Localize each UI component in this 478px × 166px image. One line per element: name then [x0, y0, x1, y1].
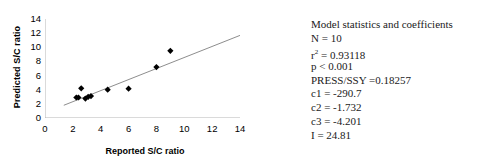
stats-heading: Model statistics and coefficients [311, 18, 476, 32]
x-tick-label: 6 [119, 124, 139, 134]
stats-line: c2 = -1.732 [311, 101, 476, 115]
x-tick-label: 10 [174, 124, 194, 134]
data-point [167, 48, 173, 54]
model-statistics-block: Model statistics and coefficients N = 10… [311, 18, 476, 46]
x-tick-label: 12 [202, 124, 222, 134]
x-tick-label: 2 [63, 124, 83, 134]
y-tick-label: 10 [19, 42, 41, 52]
stats-line-text: = 0.93118 [318, 48, 365, 60]
scatter-chart: Predicted S/C ratio 02468101214 02468101… [0, 0, 300, 166]
y-tick-label: 0 [19, 113, 41, 123]
stats-line: c1 = -290.7 [311, 87, 476, 101]
plot-area [45, 19, 240, 118]
x-tick-label: 4 [91, 124, 111, 134]
y-axis-tick-labels: 02468101214 [15, 0, 41, 166]
stats-lines: N = 10r2 = 0.93118p < 0.001PRESS/SSY =0.… [311, 32, 476, 46]
y-tick-label: 8 [19, 56, 41, 66]
y-tick-label: 4 [19, 85, 41, 95]
stats-line: c3 = -4.201 [311, 115, 476, 129]
x-tick-label: 14 [230, 124, 250, 134]
data-point [105, 87, 111, 93]
stats-line: r2 = 0.93118 [311, 46, 476, 60]
stats-line: N = 10 [311, 32, 476, 46]
data-point-markers [73, 48, 173, 102]
y-tick-label: 2 [19, 99, 41, 109]
x-axis-title: Reported S/C ratio [45, 146, 245, 156]
x-tick-label: 8 [146, 124, 166, 134]
stats-line: I = 24.81 [311, 129, 476, 143]
data-point [125, 86, 131, 92]
data-point [78, 85, 84, 91]
y-tick-label: 6 [19, 71, 41, 81]
stats-line: PRESS/SSY =0.18257 [311, 74, 476, 88]
x-axis-tick-labels: 02468101214 [0, 124, 300, 138]
stats-line: p < 0.001 [311, 60, 476, 74]
x-tick-label: 0 [35, 124, 55, 134]
y-tick-label: 12 [19, 28, 41, 38]
plot-svg [45, 19, 240, 118]
y-tick-label: 14 [19, 14, 41, 24]
